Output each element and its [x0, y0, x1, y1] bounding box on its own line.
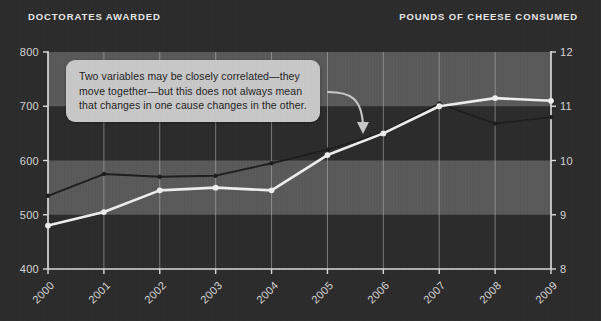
right-axis-tick-label: 9	[560, 209, 594, 221]
series-data-point	[157, 187, 163, 193]
left-axis-tick-label: 600	[0, 155, 39, 167]
left-axis-tick-label: 500	[0, 209, 39, 221]
series-data-point	[269, 161, 273, 165]
annotation-callout: Two variables may be closely correlated—…	[66, 60, 320, 122]
right-axis-tick-label: 11	[560, 100, 594, 112]
series-data-point	[213, 173, 217, 177]
series-data-point	[549, 115, 553, 119]
series-data-point	[436, 103, 442, 109]
series-data-point	[45, 223, 51, 229]
annotation-line-2: move together—but this does not always m…	[79, 84, 307, 99]
series-data-point	[325, 147, 329, 151]
series-data-point	[493, 121, 497, 125]
series-data-point	[213, 185, 219, 191]
left-axis-tick-label: 800	[0, 46, 39, 58]
series-data-point	[548, 98, 554, 104]
series-data-point	[325, 152, 331, 158]
right-axis-tick-label: 12	[560, 46, 594, 58]
series-data-point	[101, 209, 107, 215]
annotation-line-3: that changes in one cause changes in the…	[79, 98, 307, 113]
series-data-point	[158, 175, 162, 179]
series-data-point	[46, 194, 50, 198]
right-axis-tick-label: 8	[560, 263, 594, 275]
left-axis-tick-label: 700	[0, 100, 39, 112]
series-data-point	[102, 172, 106, 176]
annotation-line-1: Two variables may be closely correlated—…	[79, 69, 307, 84]
correlation-line-chart	[0, 0, 601, 321]
left-axis-tick-label: 400	[0, 263, 39, 275]
series-data-point	[492, 95, 498, 101]
plot-band	[48, 161, 551, 215]
series-data-point	[269, 187, 275, 193]
series-data-point	[380, 130, 386, 136]
right-axis-tick-label: 10	[560, 155, 594, 167]
annotation-arrow-head	[357, 122, 369, 134]
